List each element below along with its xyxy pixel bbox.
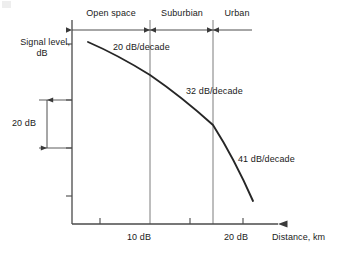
y-axis [66, 20, 72, 224]
delta-20db-label: 20 dB [0, 118, 36, 129]
x-axis [72, 218, 278, 224]
y-axis-label-line2: dB [22, 48, 62, 59]
region-label-urban: Urban [216, 8, 258, 19]
x-axis-label: Distance, km [272, 232, 325, 243]
y-axis-label-line1: Signal level, [2, 37, 70, 48]
slope-label-urban: 41 dB/decade [238, 154, 295, 165]
slope-label-open-space: 20 dB/decade [113, 42, 170, 53]
x-tick-label-20db: 20 dB [212, 232, 260, 243]
region-label-suburbian: Suburbian [152, 8, 212, 19]
delta-20db-marker [39, 100, 72, 148]
propagation-chart-figure: Open space Suburbian Urban Signal level,… [0, 0, 348, 254]
x-tick-label-10db: 10 dB [115, 232, 163, 243]
slope-label-suburbian: 32 dB/decade [186, 86, 243, 97]
region-label-open-space: Open space [66, 8, 156, 19]
signal-level-curve [88, 42, 253, 201]
